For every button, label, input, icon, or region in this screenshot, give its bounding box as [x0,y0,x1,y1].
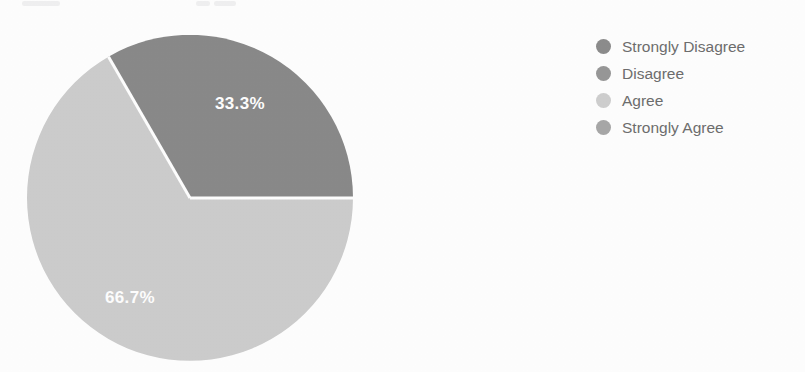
circle-marker-icon [596,66,611,81]
legend-label: Disagree [622,66,684,82]
chart-legend: Strongly Disagree Disagree Agree Strongl… [596,33,801,141]
scan-artifact [22,1,60,6]
legend-label: Strongly Disagree [622,39,745,55]
legend-item-disagree[interactable]: Disagree [596,60,801,87]
circle-marker-icon [596,39,611,54]
pie-label-agree: 66.7% [105,288,155,307]
legend-item-strongly-agree[interactable]: Strongly Agree [596,114,801,141]
legend-label: Strongly Agree [622,120,724,136]
scan-artifact [214,1,236,6]
legend-item-strongly-disagree[interactable]: Strongly Disagree [596,33,801,60]
pie-chart: 33.3% 66.7% [27,35,353,361]
circle-marker-icon [596,120,611,135]
pie-chart-figure: 33.3% 66.7% Strongly Disagree Disagree A… [0,0,805,372]
legend-label: Agree [622,93,663,109]
pie-svg: 33.3% 66.7% [27,35,353,361]
scan-artifact [196,1,210,6]
circle-marker-icon [596,93,611,108]
legend-item-agree[interactable]: Agree [596,87,801,114]
pie-label-strongly-disagree: 33.3% [215,94,265,113]
